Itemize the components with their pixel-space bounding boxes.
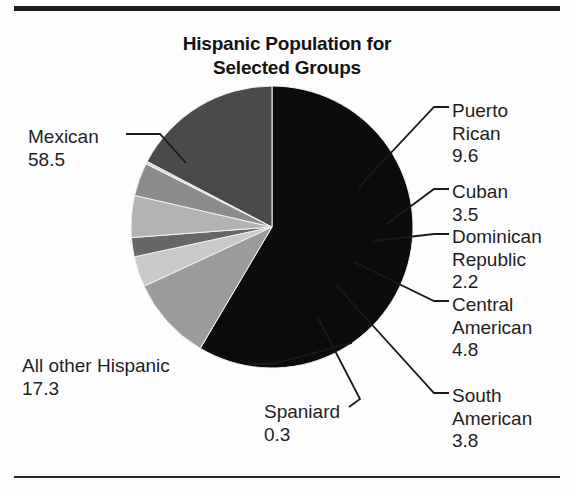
slice-label-cuban: Cuban 3.5 bbox=[452, 181, 508, 226]
slice-label-central-american-name-1: Central bbox=[452, 294, 532, 317]
slice-label-spaniard: Spaniard 0.3 bbox=[264, 401, 340, 446]
slice-label-puerto-rican-name-2: Rican bbox=[452, 123, 508, 146]
slice-label-puerto-rican-value: 9.6 bbox=[452, 145, 508, 168]
slice-label-all-other-hispanic: All other Hispanic 17.3 bbox=[22, 355, 170, 400]
slice-label-south-american-name-1: South bbox=[452, 385, 532, 408]
slice-label-dominican-republic-name-2: Republic bbox=[452, 249, 542, 272]
slice-label-spaniard-name: Spaniard bbox=[264, 401, 340, 424]
slice-label-mexican-name: Mexican bbox=[28, 126, 99, 149]
slice-label-cuban-value: 3.5 bbox=[452, 204, 508, 227]
slice-label-south-american-value: 3.8 bbox=[452, 430, 532, 453]
figure-container: Hispanic Population for Selected Groups … bbox=[0, 0, 574, 490]
pie-slice-group bbox=[131, 86, 413, 368]
slice-label-cuban-name: Cuban bbox=[452, 181, 508, 204]
slice-label-puerto-rican-name-1: Puerto bbox=[452, 100, 508, 123]
slice-label-south-american: South American 3.8 bbox=[452, 385, 532, 453]
slice-label-dominican-republic-value: 2.2 bbox=[452, 271, 542, 294]
slice-label-puerto-rican: Puerto Rican 9.6 bbox=[452, 100, 508, 168]
slice-label-mexican-value: 58.5 bbox=[28, 149, 99, 172]
slice-label-south-american-name-2: American bbox=[452, 408, 532, 431]
bottom-rule-divider bbox=[14, 476, 560, 478]
slice-label-dominican-republic: Dominican Republic 2.2 bbox=[452, 226, 542, 294]
slice-label-central-american: Central American 4.8 bbox=[452, 294, 532, 362]
slice-label-central-american-name-2: American bbox=[452, 317, 532, 340]
slice-label-all-other-hispanic-value: 17.3 bbox=[22, 378, 170, 401]
slice-label-all-other-hispanic-name: All other Hispanic bbox=[22, 355, 170, 378]
slice-label-central-american-value: 4.8 bbox=[452, 339, 532, 362]
slice-label-dominican-republic-name-1: Dominican bbox=[452, 226, 542, 249]
slice-label-mexican: Mexican 58.5 bbox=[28, 126, 99, 171]
slice-label-spaniard-value: 0.3 bbox=[264, 424, 340, 447]
